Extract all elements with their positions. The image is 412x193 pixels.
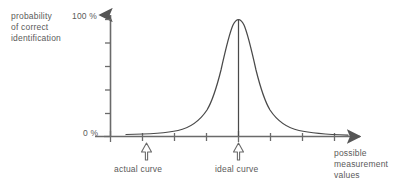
y-axis-caption: probability of correct identification <box>11 11 61 44</box>
actual-curve-path <box>126 20 348 136</box>
x-axis-caption: possible measurement values <box>334 148 388 181</box>
figure-container: probability of correct identification 10… <box>0 0 412 193</box>
actual-curve-annotation-label: actual curve <box>114 164 162 175</box>
ideal-curve-marker-icon <box>234 143 244 160</box>
y-axis-min-tick-label: 0 % <box>83 128 98 139</box>
actual-curve-marker-icon <box>142 143 152 160</box>
ideal-curve-annotation-label: ideal curve <box>215 164 258 175</box>
y-axis-max-tick-label: 100 % <box>72 11 97 22</box>
